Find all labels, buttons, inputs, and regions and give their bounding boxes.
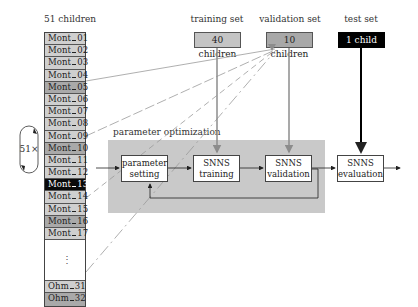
parameter-setting-box: parameter setting [121,155,168,182]
snns-evaluation-box: SNNS evaluation [337,155,384,182]
list-item: Ohm32 [45,293,85,305]
list-item: Mont09 [45,131,85,143]
snns-validation-line2: validation [266,169,311,180]
list-ellipsis: ⋮ [45,240,85,281]
vertical-ellipsis-icon: ⋮ [62,254,72,265]
snns-training-box: SNNS training [193,155,240,182]
list-item: Ohm31 [45,281,85,293]
list-item-selected: Mont13 [45,179,85,191]
list-item: Mont04 [45,70,85,82]
list-item: Mont06 [45,94,85,106]
list-item: Mont15 [45,204,85,216]
list-item: Mont16 [45,216,85,228]
list-item: Mont05 [45,82,85,94]
list-item: Mont07 [45,106,85,118]
snns-training-line2: training [194,169,239,180]
snns-training-line1: SNNS [194,158,239,169]
list-item: Mont01 [45,33,85,45]
repeat-count-label: 51× [18,144,40,154]
snns-evaluation-line2: evaluation [338,169,383,180]
list-item: Mont14 [45,191,85,203]
list-item: Mont08 [45,118,85,130]
snns-validation-line1: SNNS [266,158,311,169]
list-item: Mont12 [45,167,85,179]
snns-evaluation-line1: SNNS [338,158,383,169]
snns-validation-box: SNNS validation [265,155,312,182]
list-item: Mont11 [45,155,85,167]
parameter-setting-line2: setting [122,169,167,180]
list-item: Mont03 [45,57,85,69]
children-list: Mont01 Mont02 Mont03 Mont04 Mont05 Mont0… [44,32,86,307]
list-item: Mont17 [45,228,85,240]
list-item: Mont10 [45,143,85,155]
list-item: Mont02 [45,45,85,57]
parameter-setting-line1: parameter [122,158,167,169]
